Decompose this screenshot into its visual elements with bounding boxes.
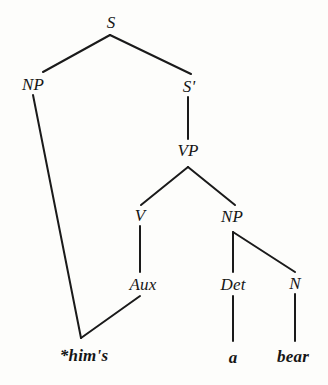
- tree-edge-np1-to-w1: [33, 95, 81, 338]
- tree-terminal-w2: a: [229, 349, 238, 366]
- tree-edge-aux-to-w1: [81, 296, 140, 338]
- tree-node-n: N: [289, 275, 301, 292]
- tree-node-np1: NP: [22, 76, 44, 93]
- tree-edge-np2-to-n: [233, 232, 295, 272]
- tree-node-v: V: [135, 207, 146, 224]
- tree-edges-layer: [0, 0, 328, 385]
- tree-edge-vp-to-v: [141, 167, 188, 205]
- tree-node-aux: Aux: [129, 276, 156, 293]
- tree-node-det: Det: [220, 276, 245, 293]
- syntax-tree-figure: SNPS'VPVNPAuxDetN*him'sabear: [0, 0, 328, 385]
- tree-node-vp: VP: [177, 142, 198, 159]
- tree-edge-vp-to-np2: [188, 167, 235, 205]
- tree-edge-s-to-sbar: [110, 35, 191, 74]
- tree-node-sbar: S': [183, 78, 196, 95]
- tree-terminal-w3: bear: [277, 348, 309, 365]
- tree-node-s: S: [107, 14, 116, 31]
- tree-edge-s-to-np1: [43, 35, 110, 72]
- tree-node-np2: NP: [221, 208, 243, 225]
- tree-terminal-w1: *him's: [60, 347, 108, 364]
